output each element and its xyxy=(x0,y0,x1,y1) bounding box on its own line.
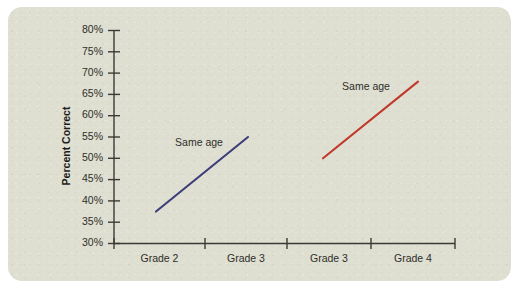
y-tick-label: 60% xyxy=(82,108,103,120)
y-tick-label: 35% xyxy=(82,215,103,227)
y-tick-label: 40% xyxy=(82,194,103,206)
series-annotation-older: Same age xyxy=(342,80,390,92)
y-tick-label: 80% xyxy=(82,23,103,35)
y-tick-label: 50% xyxy=(82,151,103,163)
y-axis-title: Percent Correct xyxy=(60,106,72,185)
y-tick-label: 70% xyxy=(82,66,103,78)
figure-root: 30% 35% 40% 45% 50% 55% 60% 65% 70% 75% … xyxy=(0,0,519,288)
y-tick-label: 55% xyxy=(82,130,103,142)
x-tick-label: Grade 4 xyxy=(394,252,432,264)
series-line-older xyxy=(323,82,418,159)
x-tick-label: Grade 3 xyxy=(227,252,265,264)
series-annotation-younger: Same age xyxy=(175,136,223,148)
x-tick-label: Grade 2 xyxy=(141,252,179,264)
y-tick-label: 65% xyxy=(82,87,103,99)
x-tick-label: Grade 3 xyxy=(310,252,348,264)
y-tick-label: 75% xyxy=(82,45,103,57)
chart-canvas: 30% 35% 40% 45% 50% 55% 60% 65% 70% 75% … xyxy=(0,0,519,288)
y-tick-label: 30% xyxy=(82,236,103,248)
series-line-younger xyxy=(156,137,248,212)
y-tick-label: 45% xyxy=(82,172,103,184)
